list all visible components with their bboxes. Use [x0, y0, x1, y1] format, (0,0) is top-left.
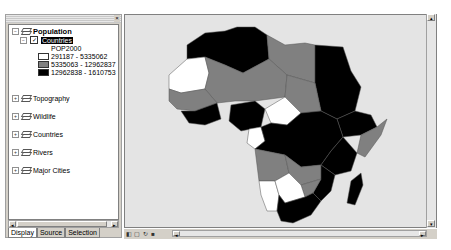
country-western-sahara-mauritania[interactable] [169, 57, 209, 93]
layer-list: − Population − ✓ Countries POP2000 29118… [8, 24, 119, 220]
visibility-checkbox[interactable]: ✓ [30, 36, 38, 44]
layer-label: Population [33, 27, 72, 36]
map-status-bar: ◧ ▢ ↻ ■ ◂ ▸ [124, 228, 437, 239]
layer-stack-icon [22, 113, 30, 120]
country-nigeria[interactable] [229, 101, 265, 131]
legend-class: 12962838 - 1610753 [38, 69, 116, 76]
layout-view-icon[interactable]: ◧ [126, 231, 132, 237]
layer-stack-icon [22, 95, 30, 102]
layer-label: Topography [33, 95, 70, 102]
layer-stack-icon [22, 28, 30, 35]
legend-class: 291187 - 5335062 [38, 53, 107, 60]
scroll-left-icon[interactable]: ◂ [9, 221, 16, 227]
data-view-icon[interactable]: ▢ [134, 231, 140, 237]
collapse-icon[interactable]: − [20, 37, 27, 44]
expand-icon[interactable]: + [12, 131, 19, 138]
expand-icon[interactable]: + [12, 149, 19, 156]
legend-swatch [38, 69, 49, 76]
map-horizontal-scrollbar[interactable]: ◂ ▸ [172, 230, 427, 237]
expand-icon[interactable]: + [12, 95, 19, 102]
layer-countries-selected[interactable]: − ✓ Countries [20, 36, 73, 44]
layer-major-cities[interactable]: + Major Cities [12, 167, 70, 174]
pause-drawing-icon[interactable]: ■ [150, 231, 156, 237]
map-view[interactable] [124, 14, 437, 228]
layer-wildlife[interactable]: + Wildlife [12, 113, 56, 120]
layer-label: Countries [41, 37, 73, 44]
expand-icon[interactable]: + [12, 113, 19, 120]
legend-swatch [38, 61, 49, 68]
legend-field: POP2000 [51, 45, 81, 52]
layer-countries[interactable]: + Countries [12, 131, 63, 138]
layer-stack-icon [22, 167, 30, 174]
layer-rivers[interactable]: + Rivers [12, 149, 53, 156]
tab-selection[interactable]: Selection [65, 228, 100, 238]
layer-population[interactable]: − Population [12, 27, 72, 36]
layer-stack-icon [22, 149, 30, 156]
country-madagascar[interactable] [347, 173, 363, 205]
refresh-icon[interactable]: ↻ [142, 231, 148, 237]
layer-label: Rivers [33, 149, 53, 156]
scroll-right-icon[interactable]: ▸ [419, 231, 426, 236]
scroll-thumb[interactable] [17, 221, 107, 227]
tab-display[interactable]: Display [8, 228, 37, 238]
layer-label: Major Cities [33, 167, 70, 174]
toc-horizontal-scrollbar[interactable]: ◂ ▸ [8, 220, 119, 228]
layer-label: Countries [33, 131, 63, 138]
legend-field-name: POP2000 [51, 45, 81, 52]
table-of-contents-panel: × − Population − ✓ Countries POP2000 291… [5, 14, 122, 238]
map-vertical-scrollbar[interactable]: ▴ ▾ [426, 14, 436, 228]
legend-class: 5335063 - 12962837 [38, 61, 116, 68]
scroll-left-icon[interactable]: ◂ [173, 231, 180, 236]
legend-class-label: 12962838 - 1610753 [51, 69, 116, 76]
close-icon[interactable]: × [114, 15, 120, 22]
collapse-icon[interactable]: − [12, 28, 19, 35]
legend-class-label: 291187 - 5335062 [51, 53, 107, 60]
layer-stack-icon [22, 131, 30, 138]
scroll-down-icon[interactable]: ▾ [427, 220, 435, 227]
panel-title-bar[interactable]: × [6, 15, 121, 23]
scroll-up-icon[interactable]: ▴ [427, 14, 435, 21]
legend-class-label: 5335063 - 12962837 [51, 61, 116, 68]
scroll-right-icon[interactable]: ▸ [111, 221, 118, 227]
expand-icon[interactable]: + [12, 167, 19, 174]
toc-tabs: Display Source Selection [8, 228, 100, 238]
layer-label: Wildlife [33, 113, 56, 120]
country-egypt-sudan[interactable] [315, 45, 361, 119]
layer-topography[interactable]: + Topography [12, 95, 70, 102]
country-namibia[interactable] [259, 181, 279, 211]
legend-swatch [38, 53, 49, 60]
tab-source[interactable]: Source [37, 228, 65, 238]
africa-map [125, 15, 436, 227]
